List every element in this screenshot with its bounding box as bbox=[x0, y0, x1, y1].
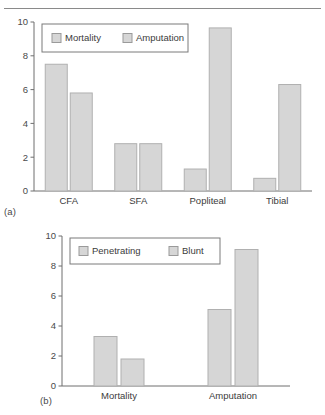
bar bbox=[121, 359, 144, 386]
bar bbox=[45, 64, 67, 191]
chart-panel-a: 0246810CFASFAPoplitealTibialMortalityAmp… bbox=[0, 14, 325, 216]
y-axis-tick-label: 4 bbox=[51, 320, 56, 331]
legend-label: Mortality bbox=[65, 32, 101, 43]
chart-panel-b: 0246810MortalityAmputationPenetratingBlu… bbox=[0, 228, 325, 415]
bar bbox=[235, 250, 258, 387]
figure-container: 0246810CFASFAPoplitealTibialMortalityAmp… bbox=[0, 0, 325, 415]
x-axis-category-label: CFA bbox=[60, 195, 79, 206]
y-axis-tick-label: 10 bbox=[45, 230, 56, 241]
panel-b-tag: (b) bbox=[40, 395, 52, 406]
x-axis-category-label: Popliteal bbox=[190, 195, 226, 206]
panel-a-tag: (a) bbox=[4, 206, 16, 217]
legend-swatch bbox=[52, 34, 61, 43]
x-axis-category-label: Tibial bbox=[266, 195, 288, 206]
legend-swatch bbox=[169, 247, 178, 256]
legend-label: Amputation bbox=[136, 32, 184, 43]
bar bbox=[279, 85, 301, 191]
x-axis-category-label: Mortality bbox=[101, 390, 137, 401]
bar bbox=[254, 178, 276, 191]
y-axis-tick-label: 6 bbox=[51, 290, 56, 301]
legend-label: Penetrating bbox=[92, 245, 141, 256]
bar bbox=[70, 93, 92, 191]
y-axis-tick-label: 4 bbox=[23, 118, 28, 129]
y-axis-tick-label: 0 bbox=[23, 185, 28, 196]
bar bbox=[208, 310, 231, 387]
bar bbox=[115, 144, 137, 191]
y-axis-tick-label: 6 bbox=[23, 84, 28, 95]
y-axis-tick-label: 2 bbox=[23, 152, 28, 163]
y-axis-tick-label: 8 bbox=[23, 50, 28, 61]
legend-swatch bbox=[123, 34, 132, 43]
y-axis-tick-label: 10 bbox=[17, 16, 28, 27]
legend-label: Blunt bbox=[182, 245, 204, 256]
bar-chart-b: 0246810MortalityAmputationPenetratingBlu… bbox=[0, 228, 325, 415]
y-axis-tick-label: 2 bbox=[51, 350, 56, 361]
bar bbox=[94, 337, 117, 387]
legend-swatch bbox=[79, 247, 88, 256]
bar bbox=[209, 28, 231, 191]
y-axis-tick-label: 8 bbox=[51, 260, 56, 271]
x-axis-category-label: Amputation bbox=[209, 390, 257, 401]
top-divider-rule bbox=[4, 8, 321, 9]
bar bbox=[140, 144, 162, 191]
bar bbox=[184, 169, 206, 191]
x-axis-category-label: SFA bbox=[129, 195, 148, 206]
y-axis-tick-label: 0 bbox=[51, 380, 56, 391]
bar-chart-a: 0246810CFASFAPoplitealTibialMortalityAmp… bbox=[0, 14, 325, 216]
